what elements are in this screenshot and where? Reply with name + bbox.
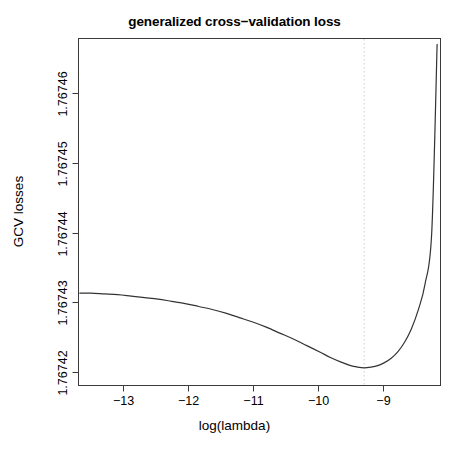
y-tick-label-1-76742: 1.76742 <box>56 344 70 402</box>
gcv-loss-curve <box>80 44 437 367</box>
y-axis-ticks <box>73 94 79 373</box>
x-axis-ticks <box>124 386 384 392</box>
x-tick-label-minus9: −9 <box>370 394 397 408</box>
plot-area-svg <box>0 0 469 451</box>
x-tick-label-minus10: −10 <box>303 394 334 408</box>
x-tick-label-minus11: −11 <box>238 394 269 408</box>
y-tick-label-1-76743: 1.76743 <box>56 274 70 332</box>
y-tick-label-1-76744: 1.76744 <box>56 205 70 263</box>
y-tick-label-1-76746: 1.76746 <box>56 65 70 123</box>
x-tick-label-minus13: −13 <box>108 394 139 408</box>
gcv-loss-figure: generalized cross−validation loss −13 −1… <box>0 0 469 451</box>
y-axis-title: GCV losses <box>11 157 26 267</box>
y-tick-label-1-76745: 1.76745 <box>56 135 70 193</box>
x-tick-label-minus12: −12 <box>173 394 204 408</box>
x-axis-title: log(lambda) <box>0 418 469 433</box>
plot-box-border <box>79 39 441 386</box>
